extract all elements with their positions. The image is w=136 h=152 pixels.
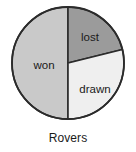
pie-chart-svg: lost won drawn [0, 0, 136, 132]
pie-label-won: won [32, 59, 54, 71]
pie-label-lost: lost [81, 31, 100, 43]
pie-chart-figure: lost won drawn Rovers [0, 0, 136, 152]
chart-caption: Rovers [0, 130, 136, 146]
pie-label-drawn: drawn [79, 83, 110, 95]
